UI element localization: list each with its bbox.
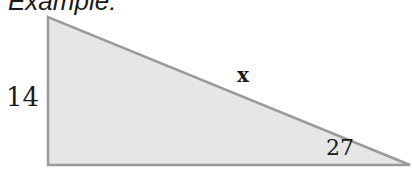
right-triangle xyxy=(48,17,410,165)
hypotenuse-label-x: x xyxy=(237,63,250,87)
side-label-14: 14 xyxy=(6,82,39,112)
right-triangle-diagram: 14 x 27 xyxy=(0,0,412,183)
angle-label-27: 27 xyxy=(326,135,354,160)
